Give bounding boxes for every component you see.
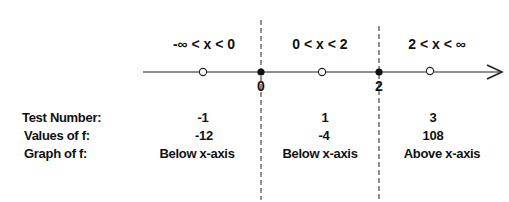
row-label-test-number: Test Number: <box>22 110 101 125</box>
graph-3: Above x-axis <box>404 146 481 161</box>
test-number-2: 1 <box>322 110 329 125</box>
tick-label-2: 2 <box>375 78 383 94</box>
number-line-graphic <box>0 0 509 202</box>
test-point-2 <box>318 68 325 75</box>
graph-1: Below x-axis <box>159 146 234 161</box>
critical-point-2 <box>375 68 382 75</box>
graph-2: Below x-axis <box>282 146 357 161</box>
value-3: 108 <box>423 128 444 143</box>
value-1: -12 <box>195 128 213 143</box>
interval-label-1: -∞ < x < 0 <box>173 36 235 52</box>
interval-label-3: 2 < x < ∞ <box>408 36 465 52</box>
tick-label-0: 0 <box>257 78 265 94</box>
row-label-values: Values of f: <box>24 128 90 143</box>
test-point-3 <box>426 67 433 74</box>
value-2: -4 <box>319 128 330 143</box>
critical-point-0 <box>257 68 264 75</box>
test-point-1 <box>199 68 206 75</box>
interval-label-2: 0 < x < 2 <box>292 36 347 52</box>
test-number-1: -1 <box>198 110 209 125</box>
test-number-3: 3 <box>430 110 437 125</box>
row-label-graph: Graph of f: <box>24 146 87 161</box>
